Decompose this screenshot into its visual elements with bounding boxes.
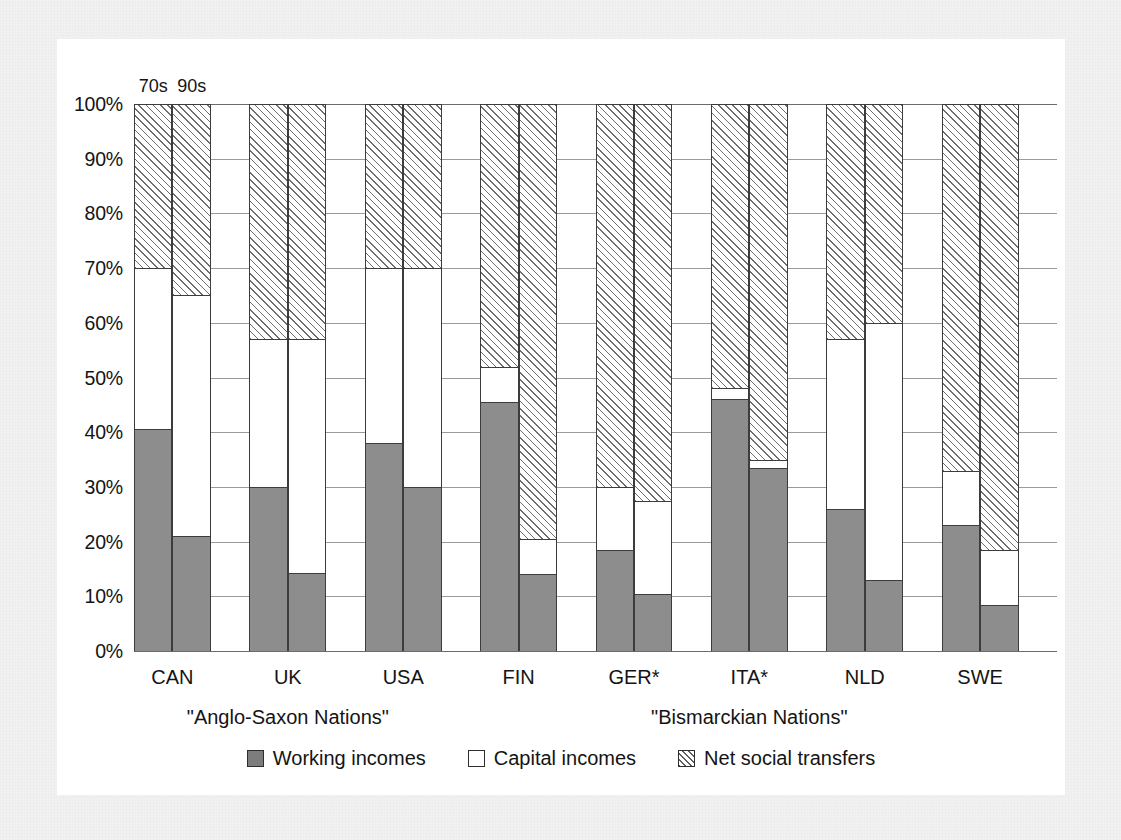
chart-figure: 0%10%20%30%40%50%60%70%80%90%100%70s90s … [57,39,1065,795]
hatched-swatch-icon [678,750,695,767]
segment-working-incomes [250,487,286,651]
segment-working-incomes [173,536,209,651]
segment-working-incomes [135,429,171,651]
legend-label: Working incomes [273,747,426,770]
segment-capital-incomes [289,339,325,573]
bar-UK-90s[interactable] [288,104,326,651]
segment-capital-incomes [250,339,286,487]
bar-SWE-90s[interactable] [980,104,1018,651]
segment-working-incomes [289,573,325,651]
legend-item-capital-incomes[interactable]: Capital incomes [468,747,636,770]
segment-working-incomes [712,399,748,651]
segment-capital-incomes [750,460,786,468]
period-label-70s: 70s [139,76,168,97]
segment-net-social-transfers [481,104,517,367]
segment-working-incomes [404,487,440,651]
scanned-page: 0%10%20%30%40%50%60%70%80%90%100%70s90s … [0,0,1121,840]
x-axis-label-USA: USA [383,666,424,689]
group-label-anglo-saxon: "Anglo-Saxon Nations" [187,706,389,729]
segment-capital-incomes [366,268,402,443]
segment-capital-incomes [173,295,209,536]
y-axis-tick-40: 40% [85,421,123,444]
segment-net-social-transfers [981,104,1017,550]
segment-net-social-transfers [597,104,633,487]
bar-NLD-90s[interactable] [865,104,903,651]
segment-net-social-transfers [404,104,440,268]
bar-NLD-70s[interactable] [826,104,864,651]
segment-capital-incomes [981,550,1017,605]
y-axis-tick-30: 30% [85,475,123,498]
segment-capital-incomes [135,268,171,429]
segment-capital-incomes [635,501,671,594]
bar-USA-90s[interactable] [403,104,441,651]
x-axis-label-UK: UK [274,666,302,689]
bar-FIN-90s[interactable] [519,104,557,651]
bar-CAN-70s[interactable] [134,104,172,651]
x-axis-label-CAN: CAN [151,666,193,689]
chart-legend: Working incomesCapital incomesNet social… [57,747,1065,770]
y-axis-tick-10: 10% [85,585,123,608]
segment-working-incomes [981,605,1017,651]
bar-CAN-90s[interactable] [172,104,210,651]
y-axis-tick-100: 100% [74,93,123,116]
segment-net-social-transfers [712,104,748,388]
legend-item-working-incomes[interactable]: Working incomes [247,747,426,770]
segment-working-incomes [635,594,671,651]
segment-net-social-transfers [289,104,325,339]
x-axis-baseline [134,651,1057,652]
bar-GER-90s[interactable] [634,104,672,651]
segment-net-social-transfers [827,104,863,339]
bar-UK-70s[interactable] [249,104,287,651]
bar-USA-70s[interactable] [365,104,403,651]
segment-capital-incomes [481,367,517,403]
bar-GER-70s[interactable] [596,104,634,651]
x-axis-label-NLD: NLD [845,666,885,689]
bar-SWE-70s[interactable] [942,104,980,651]
segment-working-incomes [866,580,902,651]
segment-net-social-transfers [943,104,979,470]
segment-net-social-transfers [520,104,556,539]
segment-working-incomes [366,443,402,651]
legend-label: Capital incomes [494,747,636,770]
x-axis-label-FIN: FIN [502,666,534,689]
segment-capital-incomes [827,339,863,509]
group-label-bismarckian: "Bismarckian Nations" [651,706,847,729]
segment-capital-incomes [404,268,440,487]
bar-ITA-90s[interactable] [749,104,787,651]
y-axis-tick-0: 0% [95,640,123,663]
segment-working-incomes [943,525,979,651]
segment-working-incomes [520,574,556,651]
y-axis-tick-80: 80% [85,202,123,225]
segment-net-social-transfers [866,104,902,323]
period-label-90s: 90s [177,76,206,97]
x-axis-label-SWE: SWE [957,666,1003,689]
segment-net-social-transfers [750,104,786,460]
segment-working-incomes [827,509,863,651]
segment-capital-incomes [943,471,979,526]
segment-net-social-transfers [250,104,286,339]
plot-area-wrapper: 0%10%20%30%40%50%60%70%80%90%100%70s90s [134,104,1057,651]
segment-working-incomes [597,550,633,651]
segment-net-social-transfers [366,104,402,268]
segment-capital-incomes [712,388,748,399]
segment-capital-incomes [866,323,902,580]
white-swatch-icon [468,750,485,767]
x-axis-label-GER: GER* [608,666,659,689]
segment-capital-incomes [520,539,556,575]
legend-item-net-social-transfers[interactable]: Net social transfers [678,747,875,770]
solid-gray-swatch-icon [247,750,264,767]
segment-capital-incomes [597,487,633,550]
y-axis-tick-90: 90% [85,147,123,170]
bar-FIN-70s[interactable] [480,104,518,651]
plot-area: 0%10%20%30%40%50%60%70%80%90%100%70s90s [134,104,1057,651]
segment-working-incomes [750,468,786,651]
y-axis-tick-50: 50% [85,366,123,389]
y-axis-tick-20: 20% [85,530,123,553]
segment-net-social-transfers [635,104,671,501]
segment-net-social-transfers [173,104,209,295]
y-axis-tick-60: 60% [85,311,123,334]
segment-net-social-transfers [135,104,171,268]
bar-ITA-70s[interactable] [711,104,749,651]
y-axis-tick-70: 70% [85,257,123,280]
x-axis-label-ITA: ITA* [731,666,768,689]
